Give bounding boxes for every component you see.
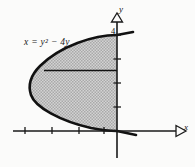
y-tick-label-4: 4 (111, 26, 115, 36)
x-axis-label: x (184, 122, 188, 132)
y-axis-arrowhead (112, 13, 123, 22)
equation-text: x = y² − 4y (24, 37, 70, 47)
y-axis-label: y (119, 4, 123, 14)
shaded-region (30, 35, 117, 131)
equation-label: x = y² − 4y (24, 37, 70, 47)
parabola-figure (0, 0, 195, 167)
